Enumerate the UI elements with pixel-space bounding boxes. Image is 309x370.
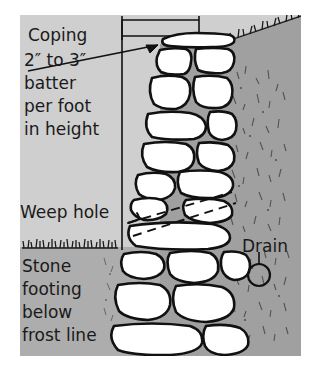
wall-stone (183, 199, 232, 223)
footing-stone (203, 325, 248, 355)
wall-stone (208, 111, 237, 140)
wall-stone (178, 171, 233, 199)
batter-label-line-4: in height (24, 119, 99, 139)
footing-label-line-3: below (22, 302, 72, 322)
coping-label: Coping (28, 25, 87, 45)
footing-stone (111, 324, 202, 356)
wall-stone (121, 252, 164, 279)
coping-cap-stone (162, 33, 234, 47)
wall-stone (197, 142, 234, 171)
wall-stone (173, 284, 234, 322)
footing-label-line-2: footing (22, 279, 82, 299)
drain-label: Drain (242, 236, 288, 256)
batter-label-line-3: per foot (24, 96, 91, 116)
wall-stone (115, 283, 170, 320)
wall-stone (168, 251, 219, 283)
wall-stone (193, 76, 232, 108)
wall-stone (136, 173, 175, 200)
stone-wall-diagram: Coping 2″ to 3″ batter per foot in heigh… (0, 0, 309, 370)
wall-stone (157, 48, 192, 74)
wall-stone (195, 48, 235, 73)
weep-hole-label: Weep hole (20, 202, 109, 222)
wall-stone (142, 142, 194, 172)
batter-label-line-1: 2″ to 3″ (24, 50, 86, 70)
footing-label-line-4: frost line (22, 325, 97, 345)
wall-stone (146, 112, 206, 140)
diagram-canvas: Coping 2″ to 3″ batter per foot in heigh… (0, 0, 309, 370)
wall-stone (150, 76, 190, 109)
batter-label-line-2: batter (24, 73, 76, 93)
footing-label-line-1: Stone (22, 256, 71, 276)
wall-stone (128, 222, 230, 249)
